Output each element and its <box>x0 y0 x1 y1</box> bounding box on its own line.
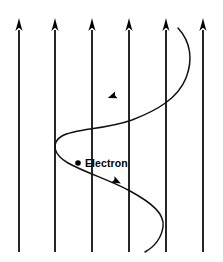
electron-label: Electron <box>85 157 128 169</box>
electron-field-diagram: Electron <box>0 0 223 262</box>
figure-background <box>0 0 223 262</box>
figure-container: Electron <box>0 0 223 262</box>
electron-marker-dot <box>75 160 81 166</box>
